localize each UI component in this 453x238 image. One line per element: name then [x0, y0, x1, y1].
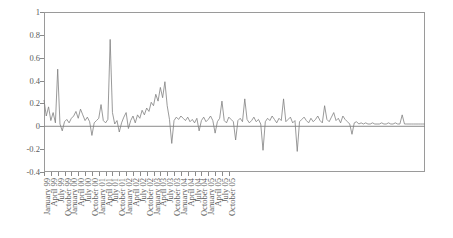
x-axis-tick: [112, 172, 113, 176]
x-axis-tick: [147, 172, 148, 176]
x-axis-tick-label: October 05: [228, 178, 237, 216]
x-axis-tick: [229, 172, 230, 176]
x-axis-tick: [44, 172, 45, 176]
x-axis-tick: [85, 172, 86, 176]
x-axis-tick: [133, 172, 134, 176]
x-axis-tick: [154, 172, 155, 176]
x-axis-tick: [160, 172, 161, 176]
x-axis-tick: [92, 172, 93, 176]
plot-area: [44, 12, 425, 172]
x-axis-tick: [58, 172, 59, 176]
x-axis-tick: [167, 172, 168, 176]
y-axis-ticks: [0, 12, 44, 172]
data-series-line: [44, 39, 425, 151]
x-axis-tick: [215, 172, 216, 176]
x-axis-tick: [195, 172, 196, 176]
x-axis-tick: [188, 172, 189, 176]
x-axis-tick: [119, 172, 120, 176]
x-axis-tick: [126, 172, 127, 176]
x-axis-tick: [106, 172, 107, 176]
x-axis-tick: [140, 172, 141, 176]
x-axis-tick: [71, 172, 72, 176]
x-axis-tick: [208, 172, 209, 176]
x-axis-tick: [201, 172, 202, 176]
chart-container: 10.80.60.40.20-0.2-0.4 January 99April 9…: [0, 0, 453, 238]
x-axis-tick: [222, 172, 223, 176]
x-axis-tick: [65, 172, 66, 176]
x-axis-tick: [78, 172, 79, 176]
x-axis-tick: [51, 172, 52, 176]
x-axis-tick: [181, 172, 182, 176]
x-axis-tick: [99, 172, 100, 176]
x-axis-tick: [174, 172, 175, 176]
chart-svg: [44, 12, 425, 172]
